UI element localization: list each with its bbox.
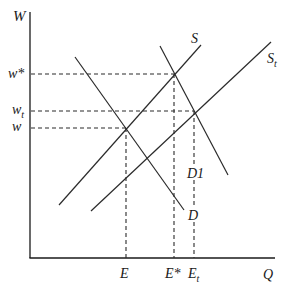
- x-tick-labels: E E* Et: [119, 266, 200, 284]
- w-star-label: w*: [8, 66, 24, 81]
- w-label: w: [12, 119, 22, 134]
- w-t-label: wt: [12, 102, 24, 120]
- labor-market-diagram: W Q w* wt w E E* Et S St D D1: [0, 0, 285, 290]
- curves: [59, 42, 271, 211]
- y-axis-label: W: [13, 8, 27, 24]
- D-label: D: [187, 208, 198, 223]
- y-tick-labels: w* wt w: [8, 66, 24, 134]
- curve-labels: S St D D1: [186, 31, 277, 223]
- E-label: E: [119, 266, 129, 281]
- guide-lines: [31, 74, 194, 258]
- supply-curve-S: [59, 45, 201, 205]
- demand-curve-D: [75, 57, 184, 210]
- S-label: S: [191, 31, 198, 46]
- E-t-label: Et: [187, 266, 200, 284]
- S-t-label: St: [267, 51, 277, 69]
- x-axis-label: Q: [263, 267, 273, 282]
- D1-label: D1: [186, 166, 204, 181]
- axes: W Q: [13, 8, 275, 282]
- E-star-label: E*: [164, 266, 181, 281]
